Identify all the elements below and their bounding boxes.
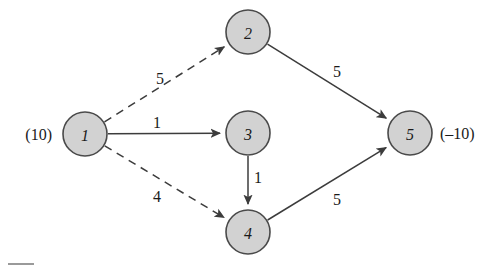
page-footer-rule — [8, 263, 34, 265]
edge-1-to-2 — [104, 47, 224, 122]
edge-label-2-5: 5 — [333, 63, 341, 80]
demand-node-5: (–10) — [440, 125, 475, 143]
node-2: 2 — [226, 10, 270, 54]
node-label-3: 3 — [243, 126, 252, 143]
edge-label-1-4: 4 — [153, 188, 161, 205]
node-label-1: 1 — [81, 127, 89, 144]
supply-node-1: (10) — [25, 126, 52, 144]
edge-2-to-5 — [268, 44, 387, 118]
edge-label-4-5: 5 — [333, 191, 341, 208]
network-flow-diagram: 12345 514515 (10)(–10) — [0, 0, 494, 270]
edge-1-to-4 — [105, 146, 224, 218]
node-1: 1 — [63, 112, 107, 156]
node-label-4: 4 — [244, 225, 252, 242]
edge-1-to-3 — [108, 133, 220, 134]
edge-label-1-3: 1 — [153, 114, 161, 131]
edge-4-to-5 — [268, 148, 386, 220]
edge-label-1-2: 5 — [156, 70, 164, 87]
node-label-2: 2 — [244, 25, 252, 42]
node-3: 3 — [226, 111, 270, 155]
nodes-group: 12345 — [63, 10, 432, 254]
network-diagram-canvas: 12345 514515 (10)(–10) — [0, 0, 494, 270]
node-4: 4 — [226, 210, 270, 254]
node-label-5: 5 — [406, 126, 414, 143]
node-5: 5 — [388, 111, 432, 155]
edge-label-3-4: 1 — [254, 169, 262, 186]
